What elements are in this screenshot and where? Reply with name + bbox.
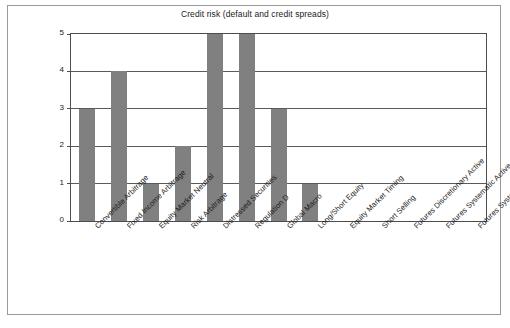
y-tick-label-4: 4 [44, 66, 64, 74]
x-tick-label: Global Macro [285, 224, 291, 230]
x-tick-label: Distressed Securities [221, 224, 227, 230]
gridline-y-4 [71, 71, 486, 72]
y-tick-4 [67, 71, 71, 72]
x-tick-label: Risk Arbitrage [189, 224, 195, 230]
y-tick-2 [67, 146, 71, 147]
x-tick-label: Futures Discretionary Active [412, 224, 418, 230]
y-tick-3 [67, 108, 71, 109]
chart-title: Credit risk (default and credit spreads) [0, 9, 510, 19]
bar [79, 109, 95, 221]
x-tick-label: Equity Market Timing [348, 224, 354, 230]
y-tick-1 [67, 183, 71, 184]
x-tick-label: Futures Systematic Passive [476, 224, 482, 230]
x-tick-label: Convertible Arbitrage [93, 224, 99, 230]
x-tick-label: Short Selling [380, 224, 386, 230]
y-tick-0 [67, 221, 71, 222]
y-tick-label-2: 2 [44, 141, 64, 149]
y-axis-tick-labels: 012345 [42, 33, 64, 222]
x-tick-label: Futures Systematic Active [444, 224, 450, 230]
x-tick-label: Long/Short Equity [316, 224, 322, 230]
x-tick-label: Fixed Income Arbitrage [125, 224, 131, 230]
y-tick-label-1: 1 [44, 179, 64, 187]
x-axis-tick-labels: Convertible ArbitrageFixed Income Arbitr… [70, 224, 487, 314]
x-tick-label: Regulation D [253, 224, 259, 230]
y-tick-5 [67, 34, 71, 35]
y-tick-label-3: 3 [44, 104, 64, 112]
x-tick-label: Equity Market Neutral [157, 224, 163, 230]
y-tick-label-5: 5 [44, 29, 64, 37]
y-tick-label-0: 0 [44, 216, 64, 224]
